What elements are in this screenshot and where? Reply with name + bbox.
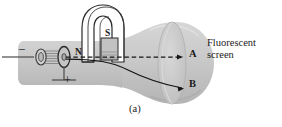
point-a-label: A <box>189 48 197 59</box>
south-pole-label: S <box>105 29 110 39</box>
figure-caption: (a) <box>129 103 141 114</box>
anode-aperture <box>62 54 66 61</box>
horseshoe-magnet <box>82 5 124 62</box>
negative-terminal-label: − <box>18 43 25 57</box>
cathode-aperture <box>39 53 44 62</box>
point-b-label: B <box>189 78 196 89</box>
crt-deflection-figure: Fluorescent screen A B N S − + (a) <box>0 0 282 127</box>
fluorescent-screen <box>158 22 186 104</box>
fluorescent-screen-label-line1: Fluorescent <box>207 37 256 48</box>
crt-diagram <box>0 0 282 127</box>
positive-terminal-label: + <box>64 74 71 87</box>
north-pole-label: N <box>75 48 82 58</box>
fluorescent-screen-label-line2: screen <box>207 49 234 60</box>
